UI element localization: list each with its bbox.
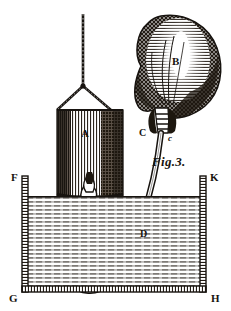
label-neck-right: c [168,134,172,143]
label-vessel-top-left: F [11,172,18,183]
label-cylinder: A [81,128,89,139]
label-tube-mid: D [140,229,147,239]
label-neck-left: C [139,128,146,138]
bladder-neck-Cc [148,108,176,134]
figure-plate: B A C c F K G H D Fig.3. [0,0,231,311]
label-vessel-bottom-right: H [211,293,220,304]
label-balloon: B [172,56,180,67]
label-vessel-bottom-left: G [9,293,18,304]
label-vessel-top-right: K [210,172,219,183]
inflated-bladder-B [125,8,230,126]
sling-yoke [57,83,111,110]
liquid-bath [27,196,201,292]
engraving-canvas [0,0,231,311]
figure-caption: Fig.3. [152,154,186,170]
